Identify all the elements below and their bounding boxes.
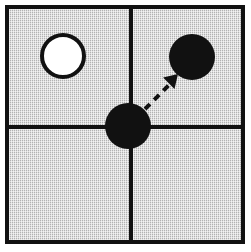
target-black-circle: [169, 34, 215, 80]
movement-arrow-shaft: [145, 80, 174, 109]
figure-root: [0, 0, 251, 252]
diagram-overlay: [0, 0, 251, 252]
white-circle: [42, 35, 84, 77]
center-black-circle: [105, 103, 151, 149]
